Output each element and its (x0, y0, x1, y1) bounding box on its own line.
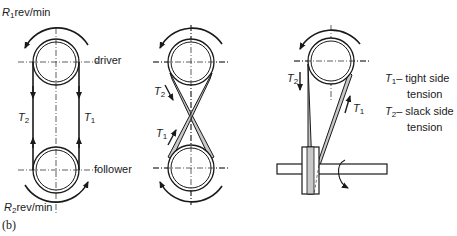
crossed-belt-t1-label: T1 (156, 128, 167, 142)
legend-t1: T1– tight side (385, 72, 454, 88)
driver-speed-label: R1rev/min (2, 7, 50, 21)
open-belt-t1-label: T1 (84, 112, 95, 126)
crossed-belt-t2-label: T2 (154, 86, 165, 100)
quarter-turn-belt-drive (277, 25, 387, 194)
follower-label: follower (94, 164, 132, 175)
crossed-belt-drive (153, 25, 230, 205)
legend-t2: T2– slack side (385, 105, 454, 121)
quarter-belt-t2-label: T2 (287, 73, 298, 87)
tension-legend: T1– tight side tension T2– slack side te… (385, 72, 454, 134)
follower-speed-label: R2rev/min (4, 202, 52, 216)
figure-caption: (b) (2, 218, 16, 233)
driver-label: driver (94, 55, 122, 66)
quarter-belt-t1-label: T1 (353, 103, 364, 117)
open-belt-t2-label: T2 (18, 112, 29, 126)
